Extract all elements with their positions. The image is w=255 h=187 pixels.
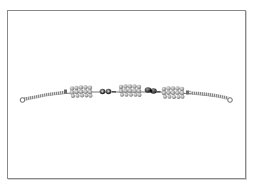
right-end-loop: [228, 98, 233, 103]
bead-cluster-1: [70, 85, 93, 98]
small-dark-bead-pair: [100, 89, 116, 95]
dark-clasp: [145, 87, 161, 94]
bead-cluster-2: [119, 84, 142, 97]
left-end-loop: [20, 98, 25, 103]
left-coil: [25, 90, 67, 101]
bracelet-photo: [0, 0, 255, 187]
bead-cluster-3: [162, 86, 185, 99]
right-coil: [186, 91, 228, 100]
